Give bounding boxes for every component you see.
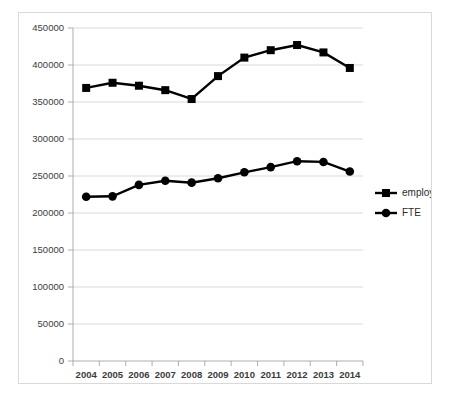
data-point-FTE-2008 bbox=[187, 178, 196, 187]
data-point-FTE-2009 bbox=[214, 174, 223, 183]
y-axis-tick-label: 50000 bbox=[38, 318, 64, 329]
data-point-FTE-2004 bbox=[82, 192, 91, 201]
y-axis-tick-label: 350000 bbox=[32, 96, 64, 107]
chart-frame: 0500001000001500002000002500003000003500… bbox=[18, 12, 432, 384]
data-point-FTE-2013 bbox=[319, 158, 328, 167]
y-axis-tick-label: 0 bbox=[59, 355, 64, 366]
x-axis-tick-label: 2010 bbox=[234, 369, 255, 380]
x-axis-tick-label: 2013 bbox=[313, 369, 334, 380]
line-chart: 0500001000001500002000002500003000003500… bbox=[19, 13, 431, 383]
x-axis-tick-label: 2004 bbox=[76, 369, 98, 380]
series-line-employees bbox=[86, 45, 350, 99]
legend-item-employees[interactable]: employees bbox=[375, 187, 431, 198]
legend-marker-circle-icon bbox=[382, 209, 391, 218]
legend-label-employees: employees bbox=[402, 187, 431, 198]
data-point-employees-2010 bbox=[240, 54, 248, 62]
data-point-employees-2004 bbox=[82, 84, 90, 92]
data-point-FTE-2014 bbox=[346, 167, 355, 176]
data-point-FTE-2010 bbox=[240, 168, 249, 177]
y-axis-tick-label: 400000 bbox=[32, 59, 64, 70]
data-point-employees-2013 bbox=[319, 48, 327, 56]
data-point-employees-2014 bbox=[346, 64, 354, 72]
y-axis-tick-label: 150000 bbox=[32, 244, 64, 255]
data-point-employees-2008 bbox=[188, 95, 196, 103]
x-axis-tick-label: 2011 bbox=[260, 369, 281, 380]
data-point-employees-2011 bbox=[267, 46, 275, 54]
legend-label-FTE: FTE bbox=[402, 207, 421, 218]
data-point-FTE-2007 bbox=[161, 177, 170, 186]
data-point-FTE-2005 bbox=[108, 192, 117, 201]
x-axis-tick-label: 2006 bbox=[128, 369, 149, 380]
data-point-FTE-2006 bbox=[135, 181, 144, 190]
data-point-FTE-2011 bbox=[266, 163, 275, 172]
x-axis-tick-label: 2014 bbox=[339, 369, 361, 380]
y-axis-tick-label: 200000 bbox=[32, 207, 64, 218]
legend-item-FTE[interactable]: FTE bbox=[375, 207, 421, 218]
data-point-employees-2006 bbox=[135, 82, 143, 90]
x-axis-tick-label: 2009 bbox=[207, 369, 228, 380]
y-axis-tick-label: 450000 bbox=[32, 22, 64, 33]
data-point-employees-2007 bbox=[161, 86, 169, 94]
data-point-employees-2005 bbox=[109, 79, 117, 87]
x-axis-tick-label: 2005 bbox=[102, 369, 124, 380]
y-axis-tick-label: 100000 bbox=[32, 281, 64, 292]
x-axis-tick-label: 2008 bbox=[181, 369, 202, 380]
y-axis-tick-label: 250000 bbox=[32, 170, 64, 181]
data-point-FTE-2012 bbox=[293, 157, 302, 166]
x-axis-tick-label: 2007 bbox=[155, 369, 176, 380]
legend-marker-square-icon bbox=[382, 189, 390, 197]
data-point-employees-2012 bbox=[293, 41, 301, 49]
data-point-employees-2009 bbox=[214, 72, 222, 80]
x-axis-tick-label: 2012 bbox=[287, 369, 308, 380]
y-axis-tick-label: 300000 bbox=[32, 133, 64, 144]
